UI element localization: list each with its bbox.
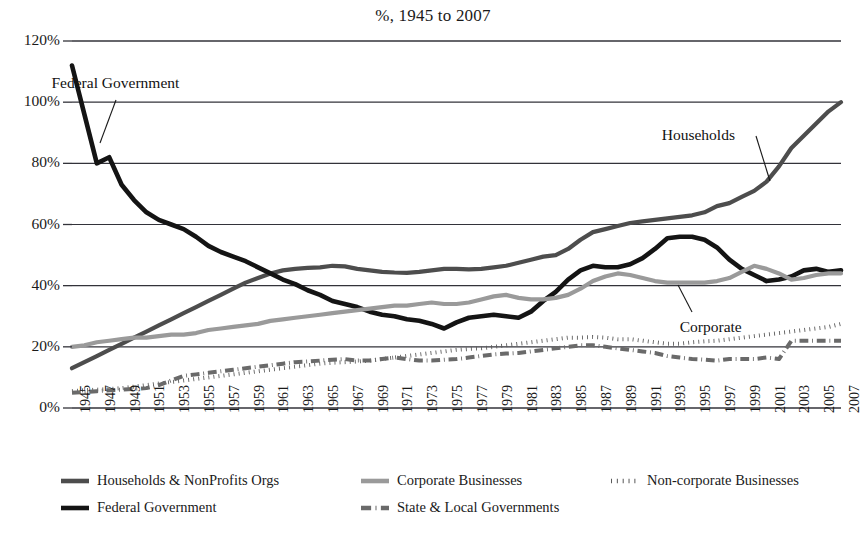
x-axis-tick-label: 1989	[624, 385, 640, 413]
y-axis-tick-label: 0%	[2, 398, 60, 416]
series-line-federal-government	[72, 65, 841, 328]
legend-item[interactable]: Corporate Businesses	[360, 472, 522, 489]
legend-swatch-icon	[610, 475, 640, 487]
y-axis-tick-label: 20%	[2, 337, 60, 355]
x-axis-tick-label: 1955	[202, 385, 218, 413]
x-axis-tick-label: 1953	[177, 385, 193, 413]
x-axis-tick-label: 1999	[748, 385, 764, 413]
x-axis-tick-label: 2005	[822, 385, 838, 413]
legend-item-label: Corporate Businesses	[397, 472, 522, 489]
x-axis-tick-label: 1965	[326, 385, 342, 413]
annotation-leader-line	[100, 100, 116, 143]
x-axis-tick-label: 1973	[425, 385, 441, 413]
x-axis-tick-label: 1947	[103, 385, 119, 413]
y-axis-tick-label: 120%	[2, 31, 60, 49]
x-axis-tick-label: 2001	[773, 385, 789, 413]
x-axis-tick-label: 1945	[78, 385, 94, 413]
y-axis-tick-label: 60%	[2, 215, 60, 233]
chart-legend: Households & NonProfits OrgsFederal Gove…	[0, 466, 866, 526]
legend-swatch-icon	[360, 502, 390, 514]
x-axis-tick-label: 1983	[549, 385, 565, 413]
x-axis-tick-label: 1949	[128, 385, 144, 413]
legend-item-label: Non-corporate Businesses	[647, 472, 799, 489]
legend-item-label: State & Local Governments	[397, 499, 559, 516]
x-axis-tick-label: 1963	[301, 385, 317, 413]
x-axis-tick-label: 1951	[152, 385, 168, 413]
x-axis-tick-label: 1997	[723, 385, 739, 413]
legend-item[interactable]: Households & NonProfits Orgs	[60, 472, 279, 489]
legend-item-label: Households & NonProfits Orgs	[97, 472, 279, 489]
annotation-leader-line	[756, 136, 770, 181]
chart-container: %, 1945 to 2007 0%20%40%60%80%100%120% 1…	[0, 0, 866, 535]
legend-item[interactable]: State & Local Governments	[360, 499, 559, 516]
x-axis-tick-label: 1987	[599, 385, 615, 413]
y-axis-tick-label: 80%	[2, 153, 60, 171]
x-axis-tick-label: 1975	[450, 385, 466, 413]
x-axis-tick-label: 1985	[574, 385, 590, 413]
y-axis-tick-label: 100%	[2, 92, 60, 110]
legend-item-label: Federal Government	[97, 499, 217, 516]
x-axis-tick-label: 1959	[252, 385, 268, 413]
x-axis-tick-label: 1961	[276, 385, 292, 413]
x-axis-tick-label: 1991	[649, 385, 665, 413]
annotation-leader-line	[678, 285, 692, 312]
x-axis-tick-label: 1977	[475, 385, 491, 413]
legend-swatch-icon	[60, 475, 90, 487]
x-axis-tick-label: 1993	[673, 385, 689, 413]
annotation-label-federal-government: Federal Government	[51, 74, 179, 92]
legend-item[interactable]: Non-corporate Businesses	[610, 472, 799, 489]
x-axis-tick-label: 2003	[797, 385, 813, 413]
x-axis-tick-label: 1995	[698, 385, 714, 413]
y-axis-tick-label: 40%	[2, 276, 60, 294]
x-axis-tick-label: 1967	[351, 385, 367, 413]
x-axis-tick-label: 1971	[400, 385, 416, 413]
x-axis-tick-label: 1979	[500, 385, 516, 413]
x-axis-tick-label: 2007	[847, 385, 863, 413]
legend-swatch-icon	[60, 502, 90, 514]
x-axis-tick-label: 1957	[227, 385, 243, 413]
x-axis-tick-label: 1981	[525, 385, 541, 413]
annotation-label-corporate: Corporate	[680, 318, 742, 336]
legend-swatch-icon	[360, 475, 390, 487]
annotation-label-households: Households	[662, 126, 735, 144]
legend-item[interactable]: Federal Government	[60, 499, 217, 516]
x-axis-tick-label: 1969	[376, 385, 392, 413]
